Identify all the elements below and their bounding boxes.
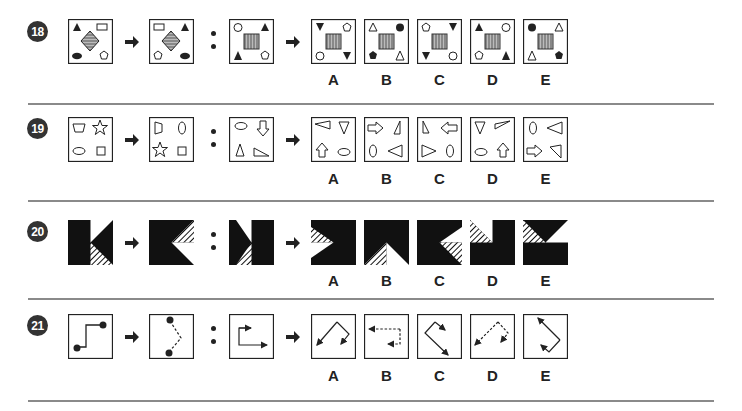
option-a-box[interactable] (311, 314, 356, 359)
stimulus-box-2 (149, 19, 194, 64)
option-label: B (364, 170, 409, 187)
option-e-box[interactable] (523, 19, 568, 64)
option-b-box[interactable] (364, 314, 409, 359)
stimulus-box-1 (68, 220, 113, 265)
option-label: C (417, 71, 462, 88)
option-d-box[interactable] (470, 220, 515, 265)
option-c-box[interactable] (417, 19, 462, 64)
stimulus-box-2 (149, 314, 194, 359)
arrow-right-icon (285, 236, 301, 250)
option-e-box[interactable] (523, 314, 568, 359)
option-label: B (364, 367, 409, 384)
option-label: B (364, 71, 409, 88)
arrow-right-icon (285, 35, 301, 49)
arrow-right-icon (124, 330, 140, 344)
option-c-box[interactable] (417, 314, 462, 359)
question-number-badge: 20 (27, 221, 48, 242)
separator-line (28, 400, 714, 402)
option-b-box[interactable] (364, 19, 409, 64)
option-label: D (470, 170, 515, 187)
option-label: E (523, 367, 568, 384)
option-c-box[interactable] (417, 117, 462, 162)
analogy-colon (211, 232, 217, 252)
option-label: E (523, 272, 568, 289)
option-label: E (523, 170, 568, 187)
option-label: D (470, 71, 515, 88)
option-label: A (311, 170, 356, 187)
option-label: C (417, 170, 462, 187)
option-label: A (311, 367, 356, 384)
option-d-box[interactable] (470, 314, 515, 359)
stimulus-box-1 (68, 117, 113, 162)
option-label: C (417, 272, 462, 289)
question-21: 21 (0, 298, 742, 398)
stimulus-box-1 (68, 314, 113, 359)
arrow-right-icon (124, 236, 140, 250)
arrow-right-icon (124, 133, 140, 147)
option-label: B (364, 272, 409, 289)
stimulus-box-1 (68, 19, 113, 64)
option-a-box[interactable] (311, 117, 356, 162)
target-box (229, 314, 274, 359)
option-e-box[interactable] (523, 220, 568, 265)
question-number-badge: 18 (27, 21, 48, 42)
option-label: E (523, 71, 568, 88)
analogy-colon (211, 326, 217, 346)
option-label: C (417, 367, 462, 384)
option-d-box[interactable] (470, 117, 515, 162)
target-box (229, 220, 274, 265)
stimulus-box-2 (149, 117, 194, 162)
option-label: A (311, 71, 356, 88)
option-c-box[interactable] (417, 220, 462, 265)
option-a-box[interactable] (311, 19, 356, 64)
option-label: D (470, 367, 515, 384)
question-19: 19 (0, 103, 742, 203)
question-number-badge: 21 (27, 315, 48, 336)
analogy-colon (211, 129, 217, 149)
option-e-box[interactable] (523, 117, 568, 162)
analogy-colon (211, 31, 217, 51)
arrow-right-icon (124, 35, 140, 49)
option-b-box[interactable] (364, 220, 409, 265)
arrow-right-icon (285, 330, 301, 344)
question-20: 20 (0, 200, 742, 300)
option-d-box[interactable] (470, 19, 515, 64)
target-box (229, 117, 274, 162)
stimulus-box-2 (149, 220, 194, 265)
option-b-box[interactable] (364, 117, 409, 162)
question-18: 18 (0, 0, 742, 100)
option-label: A (311, 272, 356, 289)
option-label: D (470, 272, 515, 289)
question-number-badge: 19 (27, 118, 48, 139)
target-box (229, 19, 274, 64)
arrow-right-icon (285, 133, 301, 147)
option-a-box[interactable] (311, 220, 356, 265)
